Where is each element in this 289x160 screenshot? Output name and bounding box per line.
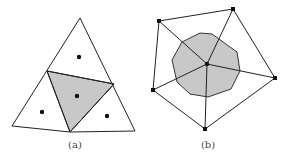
panel-b [151,7,277,131]
vertex [157,19,161,23]
panel-a-label: (a) [68,139,82,150]
point [40,110,44,114]
shaded-inner-triangle [47,71,114,132]
point [75,94,79,98]
vertex [273,76,277,80]
vertex [203,127,207,131]
center-vertex [205,62,209,66]
vertex [151,88,155,92]
panel-b-label: (b) [201,139,215,150]
diagram-canvas [0,0,289,160]
point [77,55,81,59]
panel-a [12,18,135,132]
vertex [231,7,235,11]
point [105,114,109,118]
